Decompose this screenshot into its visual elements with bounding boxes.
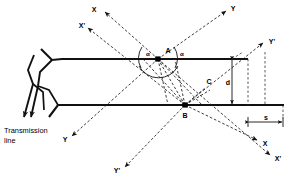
label-Y-top-right: Y bbox=[231, 5, 236, 12]
angle-arc-alpha-right bbox=[174, 47, 178, 68]
label-dimension-d: d bbox=[226, 79, 230, 86]
transmission-line-branch-2 bbox=[38, 86, 58, 105]
ray-A-to-X-upper-left bbox=[105, 12, 158, 59]
surface-group bbox=[41, 49, 284, 117]
transmission-line-conductor-2 bbox=[31, 60, 52, 117]
ray-A-to-Xprime-lower-right bbox=[158, 59, 270, 155]
caption-transmission-line-2: line bbox=[4, 136, 16, 145]
ray-B-to-Yprime-upper-right bbox=[185, 43, 263, 105]
node-dot-A bbox=[155, 56, 160, 61]
node-dot-B bbox=[182, 102, 188, 107]
label-point-C: C bbox=[206, 78, 211, 85]
label-Xprime-top-left: X' bbox=[79, 22, 86, 29]
label-point-B: B bbox=[182, 112, 187, 119]
ray-A-to-Y-lower-left bbox=[72, 59, 158, 136]
node-dot-group bbox=[155, 56, 188, 107]
angle-arc-alpha-left bbox=[138, 47, 142, 68]
ray-B-to-top-far-left bbox=[143, 59, 185, 105]
ray-group bbox=[72, 11, 270, 167]
caption-transmission-line-1: Transmission bbox=[4, 126, 48, 135]
figure-root: X X' Y Y' Y Y' X X' A B C α α d s Transm… bbox=[0, 0, 289, 179]
label-dimension-s: s bbox=[264, 114, 268, 121]
label-X-top-left: X bbox=[92, 6, 97, 13]
ray-B-to-C-second bbox=[185, 90, 210, 105]
label-Xprime-bottom-right: X' bbox=[275, 155, 282, 162]
ray-A-to-B bbox=[158, 59, 185, 105]
label-alpha-left: α bbox=[146, 50, 150, 57]
label-Y-bottom-left: Y bbox=[63, 136, 68, 143]
label-Yprime-right: Y' bbox=[269, 38, 276, 45]
angle-arc-group bbox=[138, 47, 178, 78]
top-surface-line bbox=[41, 49, 248, 60]
transmission-line-group bbox=[24, 55, 58, 117]
label-Yprime-bottom: Y' bbox=[114, 167, 121, 174]
ray-geometry-diagram: X X' Y Y' Y Y' X X' A B C α α d s Transm… bbox=[0, 0, 289, 179]
label-alpha-right: α bbox=[180, 50, 184, 57]
label-point-A: A bbox=[165, 47, 170, 54]
bottom-surface-line bbox=[49, 105, 284, 117]
ray-B-to-Yprime-lower-left bbox=[125, 105, 185, 167]
label-X-bottom-right: X bbox=[263, 140, 268, 147]
